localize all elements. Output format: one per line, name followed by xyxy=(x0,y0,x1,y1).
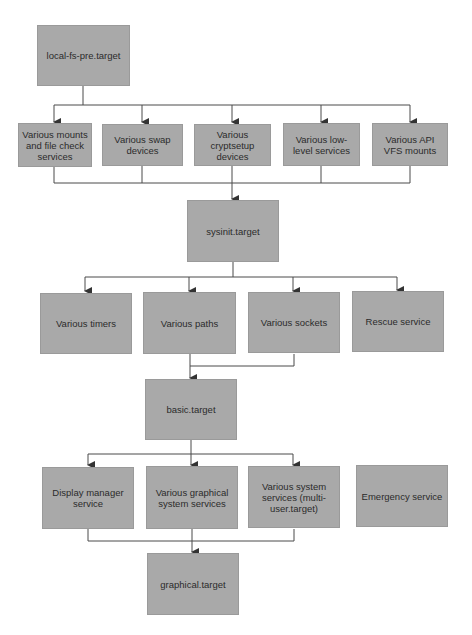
node-various-api-vfs: Various API VFS mounts xyxy=(372,123,448,166)
node-emergency-service: Emergency service xyxy=(356,465,448,527)
node-graphical-system-services: Various graphical system services xyxy=(146,466,238,529)
node-various-paths: Various paths xyxy=(143,292,236,354)
node-system-services-multi-user: Various system services (multi-user.targ… xyxy=(248,466,340,528)
node-various-swap: Various swap devices xyxy=(102,124,183,166)
node-graphical-target: graphical.target xyxy=(147,553,239,615)
node-various-timers: Various timers xyxy=(40,293,132,354)
node-sysinit-target: sysinit.target xyxy=(187,200,279,262)
node-various-mounts: Various mounts and file check services xyxy=(18,123,92,167)
node-various-lowlevel: Various low-level services xyxy=(283,123,360,166)
node-various-cryptsetup: Various cryptsetup devices xyxy=(194,124,271,166)
node-various-sockets: Various sockets xyxy=(248,292,340,353)
node-display-manager: Display manager service xyxy=(42,467,134,529)
node-basic-target: basic.target xyxy=(145,379,237,440)
node-local-fs-pre-target: local-fs-pre.target xyxy=(37,25,130,86)
node-rescue-service: Rescue service xyxy=(352,291,444,352)
